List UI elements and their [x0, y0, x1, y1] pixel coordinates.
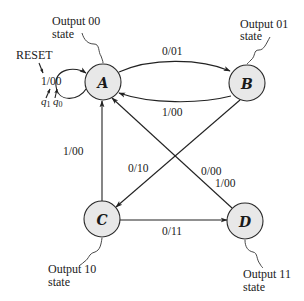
note-d-connector	[245, 240, 263, 268]
reset-label: RESET	[16, 48, 53, 62]
state-a: A	[85, 64, 121, 100]
state-c-label: C	[96, 212, 107, 228]
note-b-line2: state	[240, 29, 262, 43]
state-b-label: B	[240, 76, 253, 92]
transition-a-to-b	[119, 61, 230, 72]
state-a-label: A	[96, 75, 109, 91]
state-diagram: A B C D 0/01 1/00 0/10 0/00 1/00 1/00 0/…	[0, 0, 304, 301]
state-b: B	[229, 65, 265, 101]
note-a-line2: state	[52, 27, 74, 41]
label-b-to-a: 1/00	[162, 106, 183, 118]
q1-pointer	[46, 89, 50, 98]
note-a-line1: Output 00	[52, 14, 100, 28]
label-b-to-c: 0/10	[128, 162, 149, 174]
label-d-to-a-line1: 0/00	[201, 165, 222, 177]
state-d: D	[227, 203, 263, 239]
note-c-line1: Output 10	[48, 262, 96, 276]
note-d-line2: state	[243, 280, 265, 294]
label-c-to-a: 1/00	[63, 145, 84, 157]
state-c: C	[84, 201, 120, 237]
label-d-to-a-line2: 1/00	[215, 177, 236, 189]
q0-label: q0	[53, 95, 63, 109]
note-a-connector	[82, 33, 103, 63]
reset-pointer	[39, 63, 43, 73]
label-c-to-d: 0/11	[162, 225, 182, 237]
state-d-label: D	[238, 214, 252, 230]
q1-label: q1	[41, 95, 51, 109]
note-d-line1: Output 11	[243, 267, 291, 281]
label-a-to-a: 1/00	[41, 75, 62, 87]
label-a-to-b: 0/01	[162, 45, 183, 57]
transition-b-to-a	[119, 93, 231, 102]
note-c-line2: state	[48, 275, 70, 289]
